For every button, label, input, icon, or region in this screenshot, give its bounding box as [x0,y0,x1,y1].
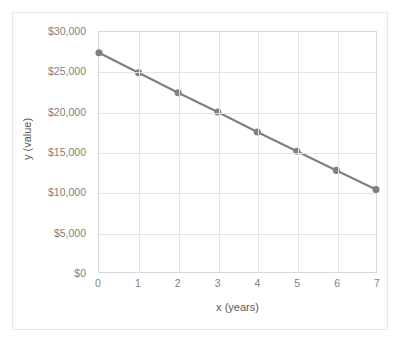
gridline-vertical [139,32,140,272]
x-axis-tick-labels: 01234567 [98,278,377,294]
x-axis-tick-label: 7 [374,278,380,289]
x-axis-tick-label: 4 [255,278,261,289]
y-axis-tick-label: $15,000 [48,147,92,158]
x-axis-tick-label: 2 [175,278,181,289]
gridline-vertical [338,32,339,272]
x-axis-tick-label: 1 [135,278,141,289]
y-axis-tick-label: $30,000 [48,26,92,37]
gridline-horizontal [99,72,376,73]
data-point-marker: 4: 17500 [254,128,261,135]
y-axis-tick-label: $5,000 [54,227,92,238]
chart-container: $0$5,000$10,000$15,000$20,000$25,000$30,… [12,12,388,330]
y-axis-tick-label: $10,000 [48,187,92,198]
gridline-vertical [258,32,259,272]
plot-area: 0: 274001: 249002: 224003: 200004: 17500… [98,31,377,273]
y-axis-tick-label: $20,000 [48,106,92,117]
gridline-horizontal [99,113,376,114]
y-axis-tick-label: $0 [74,268,92,279]
data-point-marker: 0: 27400 [95,49,102,56]
gridline-horizontal [99,234,376,235]
y-axis-tick-label: $25,000 [48,66,92,77]
x-axis-tick-label: 3 [215,278,221,289]
data-point-marker: 7: 10300 [372,186,379,193]
y-axis-title: y (value) [21,79,33,199]
gridline-vertical [219,32,220,272]
x-axis-tick-label: 0 [95,278,101,289]
gridline-vertical [298,32,299,272]
x-axis-title: x (years) [98,301,377,313]
gridline-horizontal [99,153,376,154]
x-axis-tick-label: 5 [294,278,300,289]
data-series-line: 0: 274001: 249002: 224003: 200004: 17500… [99,32,376,272]
gridline-vertical [179,32,180,272]
gridline-horizontal [99,193,376,194]
x-axis-tick-label: 6 [334,278,340,289]
